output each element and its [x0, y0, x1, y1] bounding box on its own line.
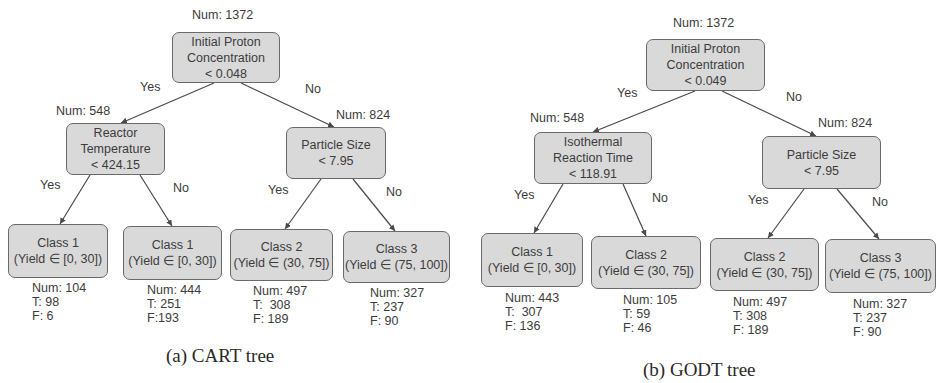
leaf-num: Num: 497	[733, 295, 787, 309]
left-split-node: Isothermal Reaction Time < 118.91	[534, 132, 652, 184]
left-yes-label: Yes	[514, 188, 534, 202]
leaf-true: T: 59	[623, 307, 677, 321]
leaf-stats: Num: 497T: 308F: 189	[733, 295, 787, 337]
root-no-label: No	[786, 90, 802, 104]
leaf-false: F: 90	[853, 325, 907, 339]
right-num-label: Num: 824	[818, 116, 872, 130]
root-num-label: Num: 1372	[673, 16, 734, 30]
leaf-class: Class 2	[744, 249, 786, 265]
godt-tree-panel: Num: 1372 Initial Proton Concentration <…	[0, 0, 943, 383]
leaf-class: Class 1	[511, 244, 553, 260]
right-line-2: < 7.95	[804, 163, 839, 179]
root-line-1: Initial Proton	[671, 41, 740, 57]
right-split-node: Particle Size < 7.95	[762, 136, 881, 189]
leaf-class: Class 3	[860, 250, 902, 266]
right-no-label: No	[872, 195, 888, 209]
root-yes-label: Yes	[617, 86, 637, 100]
left-line-1: Isothermal	[564, 134, 622, 150]
leaf-stats: Num: 105T: 59F: 46	[623, 293, 677, 335]
root-line-2: Concentration	[667, 57, 745, 73]
root-node: Initial Proton Concentration < 0.049	[646, 39, 765, 91]
leaf-range: (Yield ∈ [0, 30])	[488, 260, 576, 276]
leaf-node: Class 2 (Yield ∈ (30, 75])	[591, 236, 701, 289]
leaf-stats: Num: 443T: 307F: 136	[505, 291, 559, 333]
leaf-true: T: 308	[733, 309, 787, 323]
leaf-false: F: 46	[623, 321, 677, 335]
figure-caption: (b) GODT tree	[643, 359, 756, 381]
root-line-3: < 0.049	[684, 73, 726, 89]
left-no-label: No	[652, 191, 668, 205]
left-num-label: Num: 548	[530, 111, 584, 125]
leaf-node: Class 3 (Yield ∈ (75, 100])	[825, 239, 936, 293]
leaf-node: Class 2 (Yield ∈ (30, 75])	[710, 238, 819, 291]
leaf-num: Num: 105	[623, 293, 677, 307]
leaf-node: Class 1 (Yield ∈ [0, 30])	[481, 233, 583, 287]
left-line-3: < 118.91	[569, 166, 617, 182]
leaf-true: T: 307	[505, 305, 559, 319]
leaf-false: F: 136	[505, 319, 559, 333]
leaf-num: Num: 443	[505, 291, 559, 305]
leaf-range: (Yield ∈ (75, 100])	[829, 266, 932, 282]
right-line-1: Particle Size	[787, 147, 856, 163]
leaf-range: (Yield ∈ (30, 75])	[717, 265, 813, 281]
leaf-false: F: 189	[733, 323, 787, 337]
leaf-true: T: 237	[853, 311, 907, 325]
leaf-class: Class 2	[625, 247, 667, 263]
leaf-range: (Yield ∈ (30, 75])	[598, 263, 694, 279]
right-yes-label: Yes	[748, 193, 768, 207]
leaf-num: Num: 327	[853, 297, 907, 311]
leaf-stats: Num: 327T: 237F: 90	[853, 297, 907, 339]
left-line-2: Reaction Time	[553, 150, 633, 166]
